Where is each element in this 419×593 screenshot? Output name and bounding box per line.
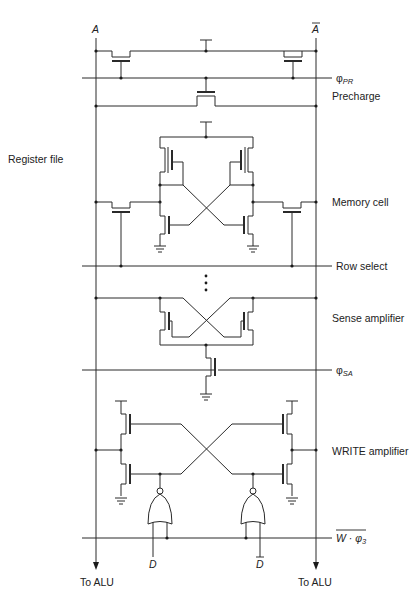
- ground-icon: [154, 246, 166, 252]
- equalize-transistor: [94, 40, 317, 78]
- row-select-line: [82, 264, 332, 267]
- diagram-title: Register file: [8, 153, 64, 165]
- bitline-right: [313, 38, 319, 570]
- write-enable-label: W · φ3: [336, 532, 367, 546]
- section-label-memory-cell: Memory cell: [332, 196, 389, 208]
- data-bar-input-label: D: [256, 558, 264, 570]
- bitline-left: [93, 38, 99, 570]
- nor-gate-left: [148, 474, 172, 557]
- memory-cell: [94, 122, 317, 266]
- bitline-label-right: A: [311, 23, 319, 35]
- section-label-sense-amplifier: Sense amplifier: [332, 312, 405, 324]
- data-input-label: D: [149, 558, 157, 570]
- ground-icon: [115, 498, 127, 504]
- bitline-label-left: A: [91, 23, 99, 35]
- write-amplifier: [94, 401, 317, 557]
- nor-gate-right: [241, 474, 265, 557]
- ground-icon: [286, 498, 298, 504]
- section-label-precharge: Precharge: [332, 90, 381, 102]
- ground-icon: [200, 390, 212, 400]
- ground-icon: [247, 246, 259, 252]
- precharge-transistor: [94, 78, 317, 108]
- precharge-clock-line: [82, 76, 332, 79]
- write-enable-line: [82, 536, 332, 539]
- more-cells-ellipsis: [205, 275, 208, 292]
- output-label-left: To ALU: [80, 576, 114, 588]
- output-label-right: To ALU: [298, 576, 332, 588]
- sense-clock-label: φSA: [336, 364, 353, 378]
- sense-amplifier: [94, 296, 317, 400]
- row-select-label: Row select: [336, 260, 387, 272]
- section-label-write-amplifier: WRITE amplifier: [332, 445, 409, 457]
- register-file-schematic: A A φPR Precharge Register file Memory c…: [0, 0, 419, 593]
- precharge-clock-label: φPR: [336, 72, 354, 86]
